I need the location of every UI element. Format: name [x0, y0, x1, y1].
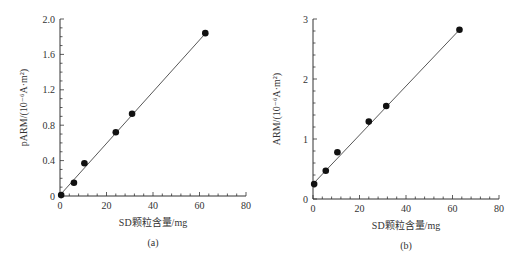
data-point [311, 181, 318, 188]
y-tick-label: 1.2 [43, 84, 56, 95]
data-point [322, 168, 329, 175]
data-point [71, 179, 78, 186]
figure: 02040608000.40.81.21.62.0SD颗粒含量/mgpARM/(… [0, 0, 522, 263]
x-tick-label: 60 [195, 200, 205, 211]
y-tick-label: 0 [303, 194, 308, 205]
data-point [81, 160, 88, 167]
data-point [456, 27, 463, 34]
data-point [129, 110, 136, 117]
x-tick-label: 80 [241, 200, 251, 211]
x-axis-title: SD颗粒含量/mg [119, 216, 187, 228]
data-point [58, 192, 65, 199]
y-axis-title: pARM/(10⁻⁶A·m²) [18, 69, 30, 146]
y-tick-label: 0.8 [43, 120, 56, 131]
y-tick-label: 1 [303, 134, 308, 145]
y-tick-label: 1.6 [43, 49, 56, 60]
x-tick-label: 0 [311, 203, 316, 214]
y-axis-title: ARM/(10⁻⁶A·m²) [271, 73, 283, 145]
panel-label: (b) [400, 240, 412, 252]
data-point [366, 118, 373, 125]
x-tick-label: 0 [58, 200, 63, 211]
x-tick-label: 80 [494, 203, 504, 214]
panel-b: 0204060800123SD颗粒含量/mgARM/(10⁻⁶A·m²)(b) [271, 14, 504, 253]
x-tick-label: 20 [355, 203, 365, 214]
y-tick-label: 0 [50, 191, 55, 202]
x-tick-label: 60 [448, 203, 458, 214]
data-point [383, 103, 390, 110]
x-tick-label: 40 [401, 203, 411, 214]
x-tick-label: 20 [102, 200, 112, 211]
x-axis-title: SD颗粒含量/mg [372, 219, 440, 231]
x-tick-label: 40 [148, 200, 158, 211]
panel-label: (a) [147, 237, 158, 249]
y-tick-label: 0.4 [43, 155, 56, 166]
y-tick-label: 3 [303, 14, 308, 25]
y-tick-label: 2 [303, 74, 308, 85]
data-point [334, 149, 341, 156]
panel-a: 02040608000.40.81.21.62.0SD颗粒含量/mgpARM/(… [18, 14, 251, 250]
data-point [113, 129, 120, 136]
y-tick-label: 2.0 [43, 14, 56, 25]
data-point [202, 30, 209, 37]
